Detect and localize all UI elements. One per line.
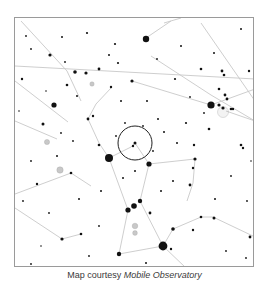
constellation-line [132,81,211,105]
star-chart-svg [15,18,254,267]
star [78,198,80,200]
star [176,142,178,144]
star [193,157,196,160]
star [163,131,165,133]
star [87,118,90,121]
constellation-line [21,21,67,71]
star [230,175,232,177]
star [146,100,148,102]
star [80,233,83,236]
constellation-line [119,246,163,254]
star [232,108,234,110]
star [98,144,101,147]
star [174,78,176,80]
star [70,172,73,175]
star [92,115,94,117]
star [221,70,224,73]
star [213,52,215,54]
star [138,199,142,203]
nebula-marker [133,231,138,236]
star [122,177,124,179]
constellation-line [15,81,68,122]
star [30,48,32,50]
star [242,147,244,149]
star [200,216,203,219]
star-map [14,17,254,267]
star [60,132,62,134]
star [132,145,134,147]
star [240,144,243,147]
constellation-line [164,18,181,23]
star [60,237,63,240]
star [160,190,162,192]
constellation-line [62,234,81,239]
constellation-line [15,173,71,194]
nebula-marker [57,167,63,173]
star [192,167,194,169]
star [48,53,51,56]
caption-prefix: Map courtesy [67,270,124,280]
star [124,122,126,124]
star [61,36,63,38]
star [171,227,175,231]
star [214,198,216,200]
star [203,112,205,114]
star [226,98,229,101]
constellation-line [193,159,195,183]
star [98,225,100,227]
star [30,160,32,162]
nebula-marker [132,223,138,229]
deep-sky-objects [44,82,228,236]
star [192,229,194,231]
constellation-line [163,246,186,267]
star [66,84,69,87]
star [64,61,66,63]
star [110,86,112,88]
constellation-line [67,71,81,101]
constellation-line [71,173,91,186]
star [130,79,133,82]
star [56,155,58,157]
constellation-line [15,208,62,239]
constellation-line [135,143,149,164]
star [149,212,152,215]
star [180,45,182,47]
constellation-line [146,21,171,38]
star [207,101,214,108]
star [145,262,147,264]
star [170,248,172,250]
star [105,154,113,162]
star [88,255,90,257]
star [131,203,137,209]
star [72,140,74,142]
constellation-line [149,159,195,164]
constellation-line [173,217,201,229]
constellation-line [140,201,163,246]
star [221,106,224,109]
star [189,184,192,187]
star [125,207,130,212]
constellation-line [109,158,128,210]
star [185,122,187,124]
star [21,78,23,80]
star [142,125,144,127]
constellation-line [88,104,96,119]
star [108,54,110,56]
star [249,236,252,239]
star [120,100,122,102]
star [200,68,203,71]
star [36,183,38,185]
star [152,150,154,152]
star [189,96,191,98]
star [30,263,32,265]
star [98,68,101,71]
star [84,71,87,74]
star [76,95,78,97]
star [117,252,121,256]
star [225,250,227,252]
star [100,190,102,192]
star [42,123,45,126]
constellation-line [140,164,149,201]
star [22,200,24,202]
star [240,28,242,30]
